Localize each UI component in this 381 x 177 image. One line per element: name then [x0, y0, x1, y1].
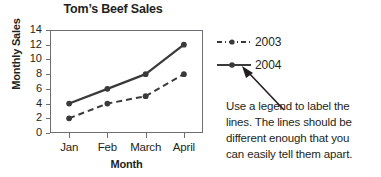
data-point-2003-April — [181, 71, 187, 77]
plot-series-layer — [50, 30, 203, 133]
legend-label-2003: 2003 — [255, 35, 281, 49]
x-tick-mark — [146, 133, 147, 138]
legend-item-2003: 2003 — [216, 33, 281, 51]
annotation-text: Use a legend to label the lines. The lin… — [226, 98, 381, 162]
annotation-line-3: different enough that you — [226, 130, 381, 146]
chart-title: Tom’s Beef Sales — [24, 2, 202, 16]
y-tick-label: 8 — [16, 68, 42, 79]
y-tick-label: 14 — [16, 24, 42, 35]
annotation-line-2: lines. The lines should be — [226, 114, 381, 130]
x-tick-mark — [184, 133, 185, 138]
y-tick-label: 12 — [16, 39, 42, 50]
y-tick-label: 2 — [16, 112, 42, 123]
y-tick-label: 4 — [16, 98, 42, 109]
data-point-2004-Feb — [104, 86, 110, 92]
data-point-2003-Jan — [66, 115, 72, 121]
data-point-2004-March — [143, 71, 149, 77]
x-tick-label: April — [160, 141, 208, 153]
data-point-2004-Jan — [66, 101, 72, 107]
y-tick-label: 0 — [16, 127, 42, 138]
x-tick-mark — [69, 133, 70, 138]
annotation-line-4: can easily tell them apart. — [226, 146, 381, 162]
x-tick-mark — [107, 133, 108, 138]
data-point-2003-Feb — [104, 101, 110, 107]
x-axis-title: Month — [50, 158, 203, 170]
y-tick-mark — [46, 133, 50, 134]
series-line-2004 — [69, 45, 184, 104]
data-point-2003-March — [143, 93, 149, 99]
legend-swatch-dashed-icon — [216, 35, 252, 49]
data-point-2004-April — [181, 42, 187, 48]
annotation-line-1: Use a legend to label the — [226, 98, 381, 114]
y-tick-label: 10 — [16, 53, 42, 64]
y-tick-label: 6 — [16, 83, 42, 94]
line-chart: Tom’s Beef Sales Monthly Sales 024681012… — [0, 0, 212, 177]
chart-figure: Tom’s Beef Sales Monthly Sales 024681012… — [0, 0, 381, 177]
